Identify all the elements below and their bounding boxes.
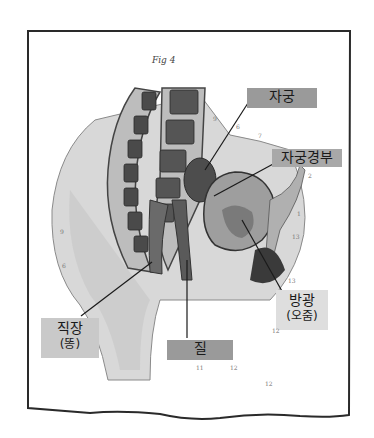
label-rectum: 직장 (똥) — [41, 318, 99, 358]
label-vagina: 질 — [167, 340, 233, 360]
ref-number: 7 — [258, 132, 262, 139]
ref-number: 12 — [265, 380, 273, 387]
ref-number: 13 — [288, 277, 296, 284]
label-vagina-text: 질 — [194, 340, 207, 356]
label-cervix-text: 자궁경부 — [281, 149, 333, 165]
illustration-canvas — [0, 0, 374, 438]
ref-number: 9 — [213, 115, 217, 122]
figure-title: Fig 4 — [152, 55, 175, 65]
ref-number: 6 — [62, 262, 66, 269]
ref-number: 9 — [60, 228, 64, 235]
label-bladder: 방광 (오줌) — [276, 290, 328, 330]
label-uterus: 자궁 — [247, 88, 317, 108]
label-bladder-line2: (오줌) — [276, 308, 328, 324]
ref-number: 12 — [272, 327, 280, 334]
label-cervix: 자궁경부 — [272, 149, 342, 167]
ref-number: 13 — [292, 233, 300, 240]
ref-number: 1 — [297, 210, 301, 217]
label-rectum-line1: 직장 — [41, 320, 99, 336]
label-bladder-line1: 방광 — [276, 292, 328, 308]
label-rectum-line2: (똥) — [41, 336, 99, 352]
ref-number: 11 — [196, 364, 204, 371]
ref-number: 12 — [230, 364, 238, 371]
ref-number: 2 — [308, 172, 312, 179]
ref-number: 6 — [236, 123, 240, 130]
label-uterus-text: 자궁 — [269, 88, 295, 104]
